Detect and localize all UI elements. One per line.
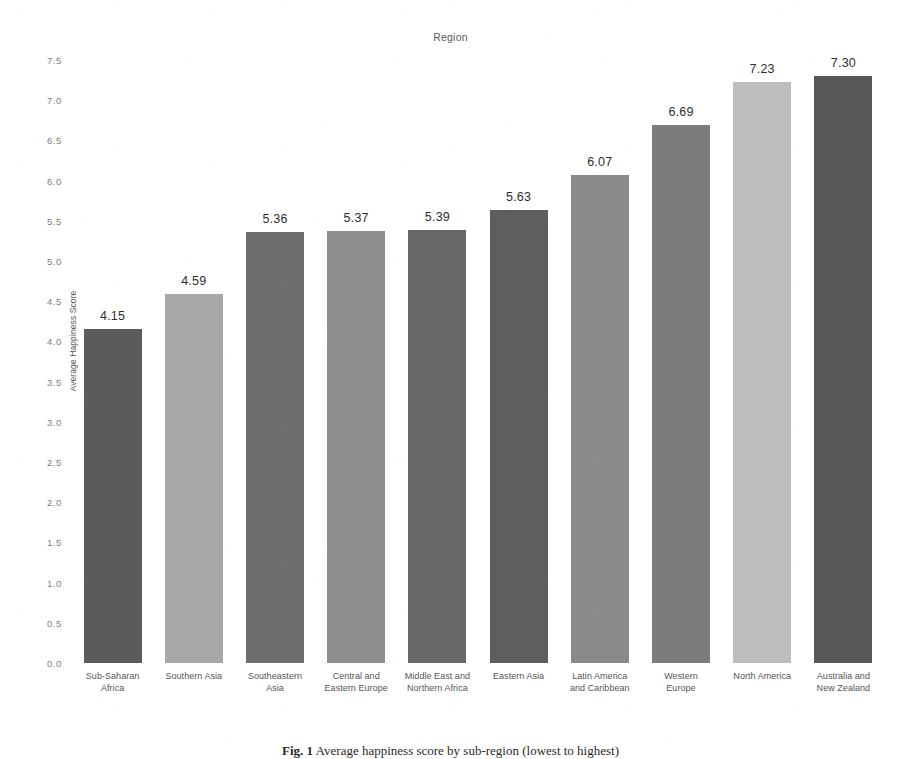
bar-group: 6.07Latin Americaand Caribbean [559, 60, 640, 663]
bar-value-label: 5.39 [425, 210, 450, 224]
chart-title: Region [0, 31, 901, 43]
bar-group: 7.30Australia andNew Zealand [803, 60, 884, 663]
bar-value-label: 7.23 [750, 62, 775, 76]
bar-value-label: 6.07 [587, 155, 612, 169]
bar-value-label: 4.15 [100, 309, 125, 323]
bar[interactable] [246, 232, 304, 663]
bar-value-label: 5.37 [344, 211, 369, 225]
figure-caption: Fig. 1 Average happiness score by sub-re… [0, 742, 901, 759]
bar[interactable] [408, 230, 466, 663]
bar-value-label: 5.63 [506, 190, 531, 204]
bar-group: 6.69WesternEurope [640, 60, 721, 663]
bar-group: 4.59Southern Asia [153, 60, 234, 663]
bar-value-label: 4.59 [181, 274, 206, 288]
bar[interactable] [733, 82, 791, 663]
y-axis-tick: 0.5 [47, 617, 62, 628]
bar-value-label: 5.36 [262, 212, 287, 226]
y-axis-tick: 2.5 [47, 457, 62, 468]
bar[interactable] [814, 76, 872, 663]
bar[interactable] [327, 231, 385, 663]
bar-group: 4.15Sub-SaharanAfrica [72, 60, 153, 663]
y-axis-tick: 5.5 [47, 215, 62, 226]
y-axis-tick: 6.5 [47, 135, 62, 146]
y-axis-tick: 4.5 [47, 296, 62, 307]
y-axis-tick: 3.5 [47, 376, 62, 387]
y-axis-tick: 4.0 [47, 336, 62, 347]
bar[interactable] [84, 329, 142, 663]
x-axis-tick-label: Australia andNew Zealand [795, 671, 891, 694]
y-axis-tick: 6.0 [47, 175, 62, 186]
bar-group: 5.39Middle East andNorthern Africa [397, 60, 478, 663]
y-axis-tick: 1.5 [47, 537, 62, 548]
figure-caption-text: Average happiness score by sub-region (l… [316, 743, 619, 758]
figure-caption-label: Fig. 1 [282, 743, 313, 758]
bar[interactable] [652, 125, 710, 663]
y-axis-tick: 1.0 [47, 577, 62, 588]
y-axis-tick: 0.0 [47, 658, 62, 669]
y-axis-tick: 3.0 [47, 416, 62, 427]
y-axis-tick: 7.5 [47, 55, 62, 66]
bar-group: 5.37Central andEastern Europe [316, 60, 397, 663]
bar-group: 5.63Eastern Asia [478, 60, 559, 663]
y-axis-tick: 5.0 [47, 256, 62, 267]
y-axis-tick: 7.0 [47, 95, 62, 106]
bar-series: 4.15Sub-SaharanAfrica4.59Southern Asia5.… [72, 60, 884, 663]
y-axis-tick: 2.0 [47, 497, 62, 508]
plot-area: 7.57.06.56.05.55.04.54.03.53.02.52.01.51… [72, 60, 884, 663]
bar-value-label: 6.69 [668, 105, 693, 119]
bar[interactable] [165, 294, 223, 663]
bar-group: 7.23North America [722, 60, 803, 663]
bar-value-label: 7.30 [831, 56, 856, 70]
bar[interactable] [490, 210, 548, 663]
bar[interactable] [571, 175, 629, 663]
bar-group: 5.36SoutheasternAsia [234, 60, 315, 663]
